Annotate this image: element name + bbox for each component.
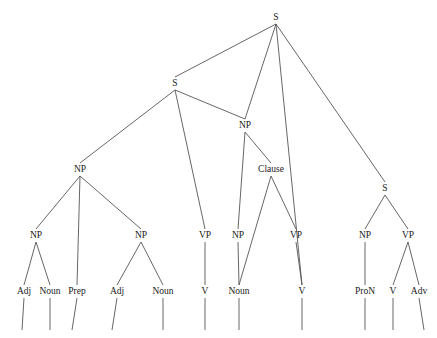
tree-node-label: VP	[290, 230, 302, 240]
leaf-stem	[112, 298, 117, 330]
tree-edge	[238, 242, 239, 285]
tree-node-label: Noun	[228, 286, 249, 296]
leaf-stem-layer	[22, 298, 424, 330]
tree-node-label: NP	[135, 230, 147, 240]
tree-edge	[175, 90, 245, 119]
tree-node-label: S	[382, 183, 387, 193]
tree-edge	[365, 195, 385, 229]
tree-edge	[36, 176, 80, 229]
tree-edge	[245, 132, 271, 163]
tree-node-label: VP	[199, 230, 211, 240]
tree-edge	[80, 176, 141, 229]
tree-edge	[276, 24, 385, 182]
tree-canvas: SSNPSNPClauseNPNPVPNPVPNPVPAdjNounPrepAd…	[0, 0, 437, 338]
tree-edge	[296, 242, 302, 285]
leaf-stem	[72, 298, 77, 330]
tree-node-label: Adv	[411, 286, 428, 296]
tree-node-label: Adj	[110, 286, 124, 296]
tree-node-label: V	[202, 286, 209, 296]
tree-node-label: VP	[402, 230, 414, 240]
leaf-stem	[419, 298, 424, 330]
tree-node-label: NP	[30, 230, 42, 240]
tree-node-label: Clause	[258, 164, 284, 174]
tree-edge	[276, 24, 302, 285]
tree-node-label: Noun	[39, 286, 60, 296]
syntax-tree-diagram: SSNPSNPClauseNPNPVPNPVPNPVPAdjNounPrepAd…	[0, 0, 437, 338]
tree-edge	[36, 242, 50, 285]
tree-edge	[80, 90, 175, 163]
tree-node-label: S	[273, 12, 278, 22]
tree-edge	[117, 242, 141, 285]
edge-layer	[24, 24, 419, 285]
tree-edge	[238, 132, 245, 229]
tree-edge	[385, 195, 408, 229]
tree-edge	[24, 242, 36, 285]
tree-edge	[408, 242, 419, 285]
tree-node-label: NP	[359, 230, 371, 240]
tree-node-label: V	[390, 286, 397, 296]
tree-node-label: Prep	[68, 286, 86, 296]
leaf-stem	[22, 298, 24, 330]
tree-edge	[77, 176, 80, 285]
tree-node-label: NP	[239, 120, 251, 130]
tree-node-label: Adj	[17, 286, 31, 296]
tree-edge	[393, 242, 408, 285]
tree-node-label: V	[299, 286, 306, 296]
tree-edge	[175, 90, 205, 229]
tree-node-label: Noun	[152, 286, 173, 296]
tree-edge	[141, 242, 163, 285]
tree-node-label: NP	[232, 230, 244, 240]
tree-node-label: S	[172, 78, 177, 88]
tree-node-label: ProN	[355, 286, 375, 296]
tree-node-label: NP	[74, 164, 86, 174]
